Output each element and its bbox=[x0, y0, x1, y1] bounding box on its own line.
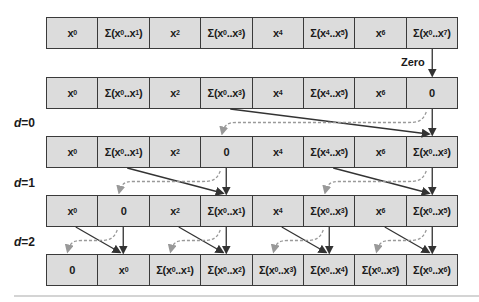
add-arrow bbox=[282, 227, 326, 252]
add-arrow bbox=[127, 168, 222, 193]
scan-diagram: x0Σ(x0..x1)x2Σ(x0..x3)x4Σ(x4..x5)x6Σ(x0.… bbox=[0, 0, 479, 302]
swap-arrow bbox=[377, 230, 427, 251]
add-arrow bbox=[179, 227, 223, 252]
add-arrow bbox=[76, 227, 120, 252]
add-arrow bbox=[230, 109, 428, 134]
arrows-layer bbox=[0, 0, 479, 302]
swap-arrow bbox=[274, 230, 324, 251]
swap-arrow bbox=[68, 230, 118, 251]
add-arrow bbox=[333, 168, 428, 193]
swap-arrow bbox=[171, 230, 221, 251]
add-arrow bbox=[385, 227, 429, 252]
